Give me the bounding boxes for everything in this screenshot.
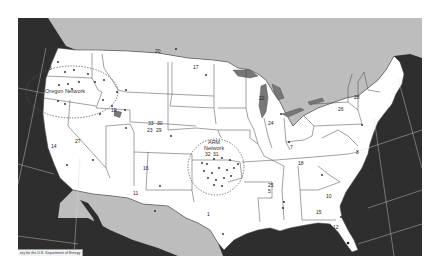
site-label: 17: [193, 65, 199, 70]
site-label: 5: [268, 189, 271, 194]
site-label: 16: [143, 166, 149, 171]
site-label: 18: [298, 161, 304, 166]
site-label: 19: [111, 108, 117, 113]
site-label: 13: [46, 66, 52, 71]
site-label: 31: [213, 152, 219, 157]
u-oregon-network-text: U. Oregon Network: [38, 88, 85, 94]
site-label: 30: [157, 121, 163, 126]
site-label: 28: [354, 95, 360, 100]
site-label: 11: [133, 191, 138, 196]
site-label: 29: [156, 128, 162, 133]
u-oregon-network-label: U. Oregon Network: [38, 89, 85, 95]
map-credit: ory for the U.S. Department of Energy: [18, 249, 83, 256]
site-label: 20: [155, 49, 161, 54]
site-label: 26: [338, 107, 344, 112]
site-label: 23: [147, 128, 153, 133]
site-label: 7: [290, 145, 293, 150]
site-label: 24: [268, 121, 274, 126]
site-label: 22: [259, 96, 265, 101]
site-label: 33: [148, 121, 154, 126]
site-label: 15: [316, 210, 322, 215]
site-label: 12: [333, 225, 339, 230]
site-label: 10: [326, 194, 332, 199]
site-label: 32: [205, 152, 211, 157]
site-label: 8: [356, 150, 359, 155]
site-label: 14: [51, 144, 57, 149]
site-label: 27: [75, 139, 81, 144]
site-label: 21: [57, 41, 63, 46]
arm-network-label: ARM Network: [204, 140, 224, 152]
map-frame: U. Oregon Network ARM Network 21 13 20 1…: [18, 18, 422, 256]
site-label: 1: [207, 212, 210, 217]
us-map-graphic: [18, 18, 422, 256]
